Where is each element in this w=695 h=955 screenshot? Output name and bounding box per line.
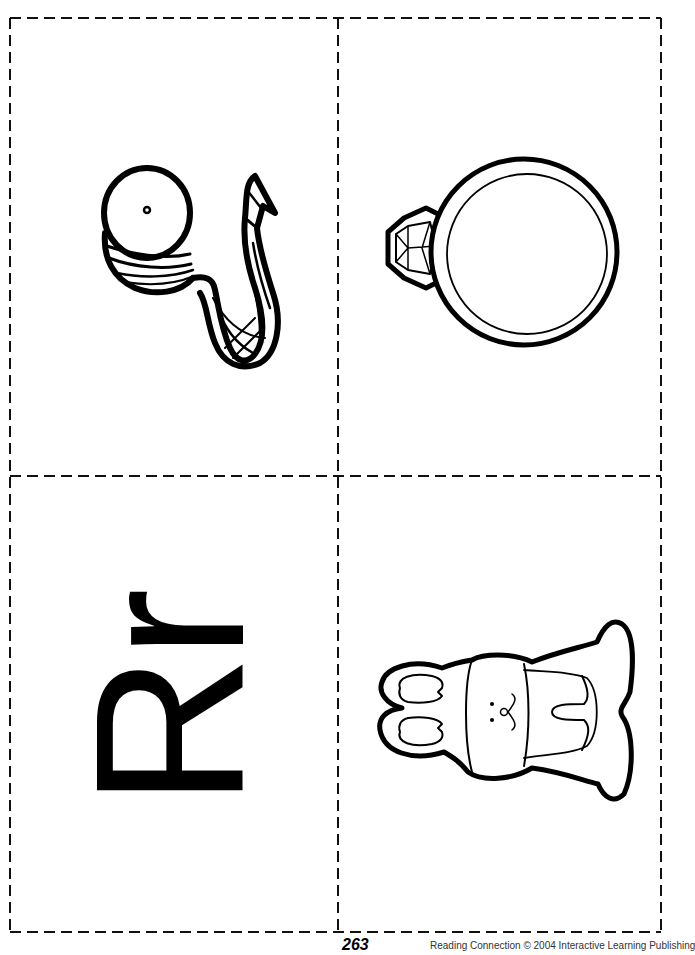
copyright-text: Reading Connection © 2004 Interactive Le… — [430, 940, 695, 951]
card-rabbit — [338, 476, 661, 932]
letter-rr: Rr — [64, 592, 276, 808]
letter-card-content: Rr — [30, 580, 310, 820]
card-ribbon — [10, 18, 338, 476]
ribbon-spool-icon — [95, 158, 285, 373]
page-number: 263 — [342, 936, 369, 954]
ring-icon — [378, 146, 628, 356]
page-footer: 263 Reading Connection © 2004 Interactiv… — [330, 936, 675, 955]
rabbit-icon — [372, 612, 642, 812]
card-ring — [338, 18, 661, 476]
